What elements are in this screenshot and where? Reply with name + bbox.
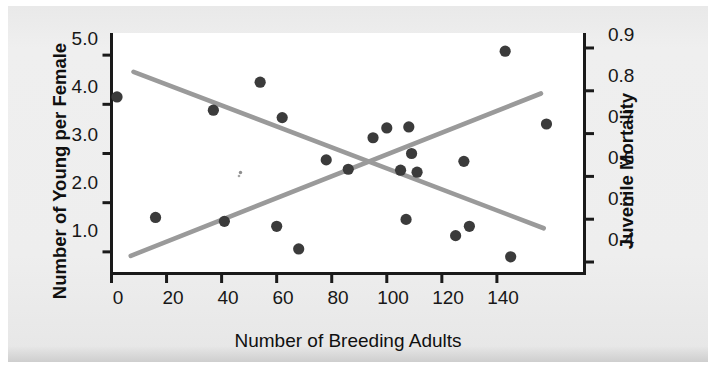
x-tick-label-120: 120 xyxy=(426,287,470,309)
chart-page: 5.0 4.0 3.0 2.0 1.0 0.9 0.8 0.7 0.6 0.5 … xyxy=(0,0,716,372)
x-tick-label-80: 80 xyxy=(316,287,360,309)
x-tick-label-20: 20 xyxy=(151,287,195,309)
x-tick-label-140: 140 xyxy=(481,287,525,309)
y-axis-right-title: Juvenile Mortality xyxy=(616,31,638,311)
plot-area xyxy=(110,33,586,275)
x-tick-label-0: 0 xyxy=(96,287,140,309)
y-axis-left-title: Number of Young per Female xyxy=(49,31,71,311)
x-tick-label-100: 100 xyxy=(371,287,415,309)
x-tick-label-40: 40 xyxy=(206,287,250,309)
x-axis-title: Number of Breeding Adults xyxy=(110,330,586,352)
x-tick-label-60: 60 xyxy=(261,287,305,309)
